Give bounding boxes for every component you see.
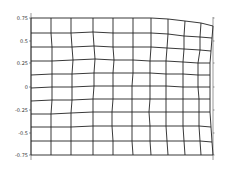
mesh-column-line [51,18,52,155]
y-tick-label: 0.5 [20,38,28,44]
mesh-column-line [149,18,151,155]
y-tick-label: -0.75 [15,152,28,158]
y-tick-label: 0 [25,84,28,90]
mesh-grid [31,18,213,155]
mesh-column-line [112,18,114,155]
y-tick-label: 0.75 [17,15,28,21]
mesh-row-line [31,18,213,26]
mesh-row-line [31,32,212,38]
mesh-column-line [132,18,133,155]
mesh-column-line [198,23,201,155]
mesh-column-line [93,18,95,155]
deformed-mesh-plot: 0.750.50.250-0.25-0.5-0.75 [0,0,228,174]
mesh-column-line [183,21,185,155]
mesh-column-line [166,19,168,155]
mesh-column-line [71,18,73,155]
y-tick: -0.5 [18,130,214,136]
y-tick: 0.5 [20,38,214,44]
mesh-column-line [210,26,213,155]
axes [31,13,213,160]
y-tick-label: 0.25 [17,60,28,66]
y-tick-label: -0.5 [18,130,28,136]
y-tick-label: -0.25 [15,107,28,113]
mesh-row-line [31,126,211,127]
mesh-row-line [31,141,212,142]
